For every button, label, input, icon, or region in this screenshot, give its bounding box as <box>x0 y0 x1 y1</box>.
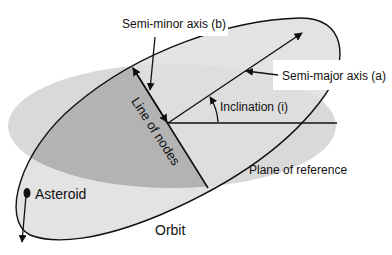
plane-of-reference-label: Plane of reference <box>249 163 347 177</box>
asteroid-point <box>24 188 31 198</box>
inclination-label: Inclination (i) <box>220 100 288 114</box>
orbit-label: Orbit <box>155 223 185 237</box>
orbital-elements-diagram <box>0 0 392 255</box>
semi-major-axis-label: Semi-major axis (a) <box>282 69 386 83</box>
semi-minor-axis-label: Semi-minor axis (b) <box>122 17 226 31</box>
asteroid-label: Asteroid <box>35 187 86 201</box>
